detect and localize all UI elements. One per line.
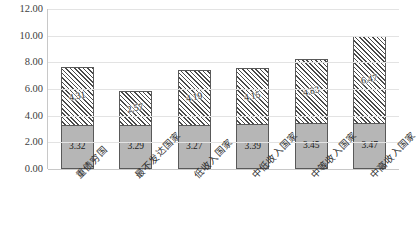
y-axis-tick-label: 0.00 <box>25 164 43 175</box>
y-axis-tick-label: 4.00 <box>25 110 43 121</box>
y-axis-tick-label: 10.00 <box>19 30 43 41</box>
x-axis-label-slot: 中等收入国家 <box>294 171 327 233</box>
bar-segment-top: 6.47 <box>353 36 386 122</box>
x-axis-label-slot: 中低收入国家 <box>236 171 269 233</box>
gridline <box>48 116 399 117</box>
x-axis-label-slot: 中高收入国家 <box>353 171 386 233</box>
gridline <box>48 62 399 63</box>
bar-value-label: 4.31 <box>68 90 86 103</box>
bar-value-label: 3.29 <box>127 142 144 152</box>
bar-value-label: 4.19 <box>185 92 203 105</box>
bar-value-label: 3.32 <box>69 142 86 152</box>
bar-value-label: 4.15 <box>244 90 262 103</box>
y-axis-tick-label: 6.00 <box>25 84 43 95</box>
gridline <box>48 9 399 10</box>
y-axis-tick-label: 2.00 <box>25 137 43 148</box>
bar-segment-top: 4.19 <box>178 70 211 126</box>
gridline <box>48 36 399 37</box>
y-axis-tick-label: 12.00 <box>19 4 43 15</box>
x-axis-label-slot: 低收入国家 <box>177 171 210 233</box>
x-axis-label-slot: 重债穷国 <box>60 171 93 233</box>
bar-segment-top: 4.83 <box>295 59 328 123</box>
bar-segment-top: 2.57 <box>119 91 152 125</box>
gridline <box>48 89 399 90</box>
bar-value-label: 4.83 <box>302 85 320 98</box>
x-axis-labels: 重债穷国最不发达国家低收入国家中低收入国家中等收入国家中高收入国家 <box>47 171 399 233</box>
gridline <box>48 169 399 170</box>
x-axis-label-slot: 最不发达国家 <box>118 171 151 233</box>
y-axis-tick-label: 8.00 <box>25 57 43 68</box>
bar-value-label: 2.57 <box>127 102 145 115</box>
bar-value-label: 3.27 <box>186 142 203 152</box>
bar-value-label: 6.47 <box>361 74 379 87</box>
